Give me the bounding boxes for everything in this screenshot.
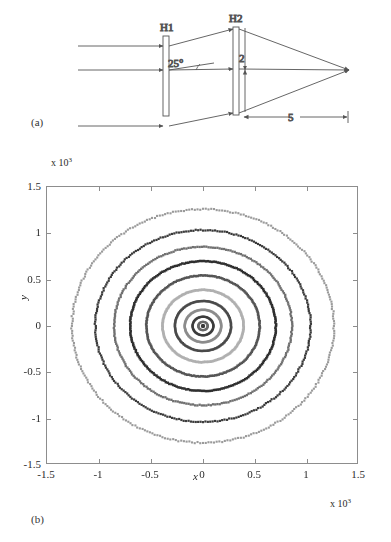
mid-ray-2: [169, 69, 233, 70]
panel-a-label: (a): [31, 116, 43, 128]
y-tick: [47, 372, 51, 373]
y-tick-label: 0: [0, 319, 41, 331]
optical-diagram-svg: H125°H225: [0, 0, 391, 152]
angle-label-25deg: 25°: [168, 57, 183, 69]
x-tick: [99, 459, 100, 463]
mid-ray-3: [169, 113, 233, 126]
plate-h2: [233, 27, 239, 115]
y-tick-label: -1: [0, 412, 41, 424]
plot-axes: [46, 186, 358, 464]
ring-plot-panel: x 103 -1.5-1-0.500.511.5-1.5-1-0.500.511…: [0, 152, 391, 542]
x-axis-exponent: x 103: [330, 497, 351, 509]
x-tick-top: [203, 187, 204, 191]
y-tick-right: [353, 419, 357, 420]
ring-scatter-canvas: [47, 187, 358, 464]
x-axis-label: x: [0, 470, 391, 482]
y-tick-right: [353, 326, 357, 327]
out-ray-3: [239, 70, 349, 113]
y-tick: [47, 326, 51, 327]
y-tick: [47, 419, 51, 420]
x-tick-top: [151, 187, 152, 191]
distance-dim-label: 5: [288, 111, 294, 123]
y-tick-label: -1.5: [0, 458, 41, 470]
x-tick: [255, 459, 256, 463]
y-tick: [47, 280, 51, 281]
plate-h2-label: H2: [229, 12, 242, 24]
x-tick: [307, 459, 308, 463]
optical-diagram-panel: H125°H225: [0, 0, 391, 152]
gap-dim-label: 2: [239, 52, 245, 64]
y-tick-label: 1.5: [0, 180, 41, 192]
y-tick-label: -0.5: [0, 365, 41, 377]
x-tick: [151, 459, 152, 463]
out-ray-2: [239, 69, 349, 70]
panel-b-label: (b): [31, 513, 44, 525]
x-tick-top: [255, 187, 256, 191]
y-tick-label: 0.5: [0, 273, 41, 285]
plate-h1: [163, 36, 169, 116]
y-tick: [47, 233, 51, 234]
x-tick: [203, 459, 204, 463]
y-tick-right: [353, 280, 357, 281]
y-tick-label: 1: [0, 226, 41, 238]
y-axis-label: y: [17, 295, 29, 300]
x-tick-top: [307, 187, 308, 191]
plate-h1-label: H1: [160, 21, 173, 33]
y-tick-right: [353, 372, 357, 373]
y-axis-exponent: x 103: [51, 156, 72, 168]
mid-ray-1: [169, 29, 233, 46]
y-tick-right: [353, 233, 357, 234]
out-ray-1: [239, 29, 349, 70]
x-tick-top: [99, 187, 100, 191]
